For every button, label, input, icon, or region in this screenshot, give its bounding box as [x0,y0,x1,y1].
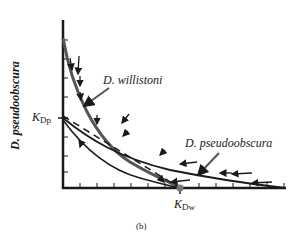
figure-caption: (b) [136,221,147,231]
k-dw-main: K [174,197,182,211]
vector-field-arrows [70,56,272,183]
k-dp-sub: Dp [40,115,51,125]
label-pseudoobscura: D. pseudoobscura [185,136,272,151]
equilibrium-point [177,185,184,192]
phase-plane-diagram: D. pseudoobscura D. willistoni D. pseudo… [0,0,292,248]
k-dw-label: KDw [174,197,195,212]
isocline-willistoni [63,38,182,188]
axes [58,20,286,194]
k-dp-main: K [32,110,40,124]
k-dw-sub: Dw [182,202,195,212]
y-axis-label: D. pseudoobscura [8,61,23,150]
label-willistoni: D. willistoni [103,73,162,88]
k-dp-label: KDp [32,110,51,125]
